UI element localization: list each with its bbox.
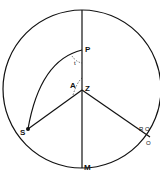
label-S: S [20, 128, 26, 137]
star-point [26, 127, 30, 131]
celestial-diagram: P Z A t S M R O O [0, 0, 160, 177]
label-A: A [70, 81, 76, 90]
label-O: O [146, 140, 151, 146]
label-M: M [84, 163, 91, 172]
label-t: t [74, 60, 76, 66]
label-Z: Z [85, 84, 90, 93]
label-P: P [85, 45, 91, 54]
label-RO: R O [139, 126, 150, 132]
